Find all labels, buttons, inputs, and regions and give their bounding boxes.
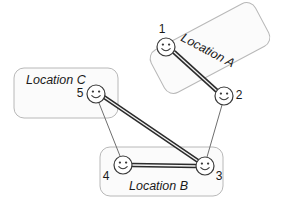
smiley-face-icon <box>215 87 233 105</box>
node-1[interactable]: 1 <box>157 22 175 56</box>
eye-right-icon <box>207 162 209 164</box>
eye-right-icon <box>168 43 170 45</box>
node-number-label: 3 <box>216 169 223 183</box>
smiley-face-icon <box>196 157 214 175</box>
node-number-label: 1 <box>159 22 166 36</box>
location-label-b: Location B <box>129 179 188 193</box>
smiley-face-icon <box>87 85 105 103</box>
eye-right-icon <box>98 90 100 92</box>
node-2[interactable]: 2 <box>215 87 243 105</box>
location-network-diagram: 12345 Location ALocation CLocation B <box>0 0 282 207</box>
eye-right-icon <box>125 161 127 163</box>
location-label-c: Location C <box>26 73 87 87</box>
node-number-label: 4 <box>103 169 110 183</box>
node-number-label: 5 <box>77 86 84 100</box>
eye-left-icon <box>201 162 203 164</box>
smiley-face-icon <box>114 156 132 174</box>
eye-right-icon <box>226 92 228 94</box>
node-number-label: 2 <box>236 88 243 102</box>
edge-4-to-3[interactable] <box>132 165 196 166</box>
eye-left-icon <box>119 161 121 163</box>
diagram-canvas: 12345 Location ALocation CLocation B <box>0 0 282 207</box>
smiley-face-icon <box>157 38 175 56</box>
eye-left-icon <box>92 90 94 92</box>
eye-left-icon <box>220 92 222 94</box>
eye-left-icon <box>162 43 164 45</box>
